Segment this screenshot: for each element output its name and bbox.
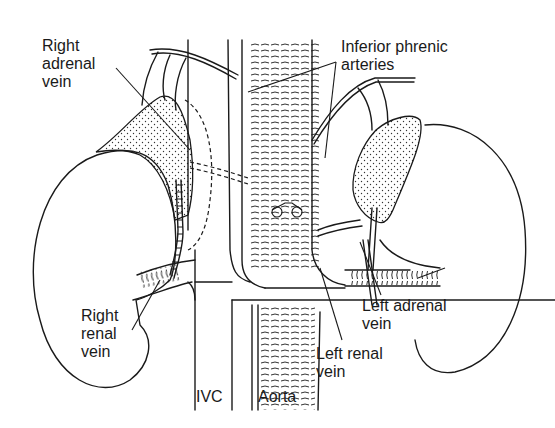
label-inferior-phrenic-arteries: Inferior phrenic arteries [341, 38, 448, 74]
left-renal-vein-vessel [345, 270, 440, 286]
right-adrenal-gland [96, 96, 212, 250]
right-phrenic-branch [190, 162, 248, 184]
label-ivc: IVC [196, 388, 223, 406]
label-aorta: Aorta [258, 388, 296, 406]
adrenal-anatomy-diagram: Right adrenal vein Inferior phrenic arte… [0, 0, 555, 428]
label-right-renal-vein: Right renal vein [81, 307, 118, 361]
right-renal-vein [133, 260, 195, 300]
label-left-adrenal-vein: Left adrenal vein [362, 297, 447, 333]
label-left-renal-vein: Left renal vein [316, 345, 383, 381]
label-right-adrenal-vein: Right adrenal vein [42, 37, 95, 91]
